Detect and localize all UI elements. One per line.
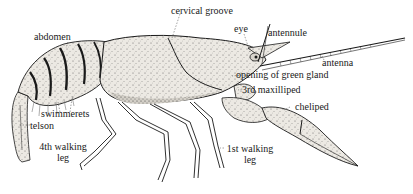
crayfish-diagram: cervical groove eye antennule abdomen an… <box>0 0 413 194</box>
abdomen-shape <box>18 41 108 116</box>
telson-shape <box>12 92 30 162</box>
label-1st-walking-leg: 1st walking leg <box>222 143 278 165</box>
label-abdomen: abdomen <box>34 31 71 42</box>
label-4th-walking-leg-line2: leg <box>35 152 91 163</box>
label-3rd-maxilliped: 3rd maxilliped <box>242 84 301 95</box>
label-4th-walking-leg-line1: 4th walking <box>35 141 91 152</box>
crayfish-illustration <box>0 0 413 194</box>
label-antennule: antennule <box>268 27 307 38</box>
label-cheliped: cheliped <box>295 101 329 112</box>
label-antenna: antenna <box>322 57 353 68</box>
label-cervical-groove: cervical groove <box>171 5 233 16</box>
label-1st-walking-leg-line1: 1st walking <box>222 143 278 154</box>
label-1st-walking-leg-line2: leg <box>222 154 278 165</box>
walking-legs <box>80 98 224 182</box>
label-4th-walking-leg: 4th walking leg <box>35 141 91 163</box>
label-telson: telson <box>30 120 54 131</box>
label-opening-of-green-gland: opening of green gland <box>236 69 328 80</box>
label-swimmerets: swimmerets <box>41 108 89 119</box>
label-eye: eye <box>234 23 248 34</box>
